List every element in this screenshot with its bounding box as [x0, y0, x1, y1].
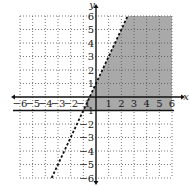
- x-axis-label: x: [183, 91, 189, 102]
- y-tick-label: 3: [88, 51, 94, 62]
- y-tick-label: −1: [79, 105, 94, 116]
- y-tick-label: 2: [88, 65, 94, 76]
- y-tick-label: −4: [79, 146, 94, 157]
- y-tick-label: −2: [79, 119, 94, 130]
- y-axis-arrow-down-icon: [94, 181, 99, 185]
- y-tick-label: 1: [88, 78, 94, 89]
- x-tick-label: 4: [143, 98, 149, 109]
- x-tick-label: 1: [105, 98, 111, 109]
- y-tick-label: −5: [79, 159, 94, 170]
- y-axis-label: y: [88, 0, 95, 10]
- y-tick-label: 4: [88, 38, 94, 49]
- y-tick-label: −3: [79, 132, 94, 143]
- y-tick-label: 6: [88, 11, 94, 22]
- inequality-graph: −6−5−4−3−2−1123456654321−1−2−3−4−5−6xy: [0, 0, 190, 187]
- y-tick-label: 5: [88, 24, 94, 35]
- x-tick-label: 6: [169, 98, 175, 109]
- x-tick-label: 5: [156, 98, 162, 109]
- y-tick-label: −6: [79, 173, 94, 184]
- x-tick-label: 2: [118, 98, 124, 109]
- x-tick-label: 3: [131, 98, 137, 109]
